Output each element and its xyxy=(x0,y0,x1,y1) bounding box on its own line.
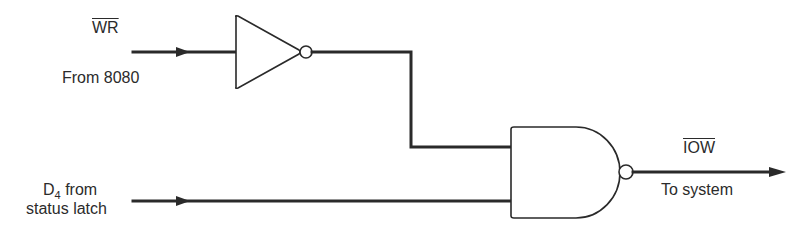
d4-signal-main: D xyxy=(43,181,55,198)
inverter-output-wire xyxy=(312,52,511,147)
wr-arrow-icon xyxy=(176,47,190,57)
wr-signal-text: WR xyxy=(92,19,119,36)
d4-signal-label: D4 from xyxy=(43,181,97,200)
nand-bubble xyxy=(619,165,633,179)
inverter-bubble xyxy=(300,46,312,58)
iow-signal-text: IOW xyxy=(683,139,715,156)
iow-signal-label: IOW xyxy=(683,139,715,157)
nand-gate xyxy=(511,127,620,218)
inverter-gate xyxy=(236,16,300,89)
iow-arrow-icon xyxy=(769,167,786,177)
wr-caption: From 8080 xyxy=(62,69,139,87)
d4-caption-suffix: from xyxy=(61,181,97,198)
d4-arrow-icon xyxy=(176,196,190,206)
circuit-diagram xyxy=(0,0,808,237)
iow-caption: To system xyxy=(661,181,733,199)
wr-signal-label: WR xyxy=(92,19,119,37)
d4-caption: status latch xyxy=(26,200,107,218)
